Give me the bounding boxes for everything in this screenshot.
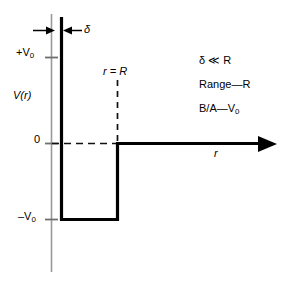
minus-v0-text: –V	[18, 210, 31, 222]
barrier-width-label: δ	[84, 24, 90, 35]
note-range: Range—R	[199, 79, 283, 90]
plus-v0-subscript: 0	[30, 51, 34, 60]
figure-caption	[0, 286, 286, 295]
note1-rest: ≪ R	[205, 54, 231, 66]
minus-v0-subscript: 0	[31, 215, 35, 224]
note-delta-much-less-than-r: δ ≪ R	[199, 55, 283, 66]
r-axis-arrowhead	[258, 136, 277, 152]
axis-label-zero: 0	[34, 134, 40, 145]
note3-symbol: B/A	[199, 102, 217, 114]
y-axis-title: V(r)	[13, 90, 31, 101]
notes-block: δ ≪ R Range—R B/A—V0	[199, 55, 283, 129]
note-b-over-a: B/A—V0	[199, 103, 283, 116]
plot-canvas	[0, 0, 286, 295]
delta-left-arrowhead	[46, 27, 55, 35]
axis-label-plus-v0: +V0	[16, 47, 34, 60]
x-axis-title: r	[214, 148, 218, 159]
range-marker-label: r = R	[103, 66, 127, 77]
note3-rest: —V	[217, 102, 235, 114]
delta-right-arrowhead	[63, 27, 72, 35]
potential-well-figure: +V0 0 –V0 V(r) r δ r = R δ ≪ R Range—R B…	[0, 0, 286, 295]
axis-label-minus-v0: –V0	[18, 211, 36, 224]
plus-v0-text: +V	[16, 46, 30, 58]
note3-subscript: 0	[235, 107, 239, 116]
